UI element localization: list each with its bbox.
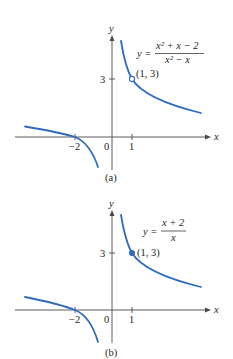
equals-sign: = bbox=[151, 226, 157, 237]
x-tick-label-1: 1 bbox=[129, 141, 134, 152]
x-tick-label-0: 0 bbox=[104, 314, 109, 325]
equation-lhs: y bbox=[136, 48, 142, 59]
equals-sign: = bbox=[145, 48, 151, 59]
panel-a: x y −2 0 1 3 (1, 3) y = x² + x − 2 x² − … bbox=[15, 23, 219, 184]
y-axis-arrow-icon bbox=[110, 35, 115, 41]
x-tick-label-1: 1 bbox=[129, 314, 134, 325]
equation-numerator: x + 2 bbox=[161, 217, 185, 228]
x-axis-arrow-icon bbox=[205, 135, 211, 140]
curve-left-branch-b bbox=[25, 297, 98, 342]
x-axis-arrow-icon bbox=[205, 308, 211, 313]
x-axis-label: x bbox=[213, 131, 219, 142]
equation-denominator: x bbox=[170, 232, 176, 243]
y-axis-label: y bbox=[108, 23, 114, 34]
open-point-marker bbox=[129, 76, 134, 81]
y-tick-label-3: 3 bbox=[100, 74, 105, 85]
figure: x y −2 0 1 3 (1, 3) y = x² + x − 2 x² − … bbox=[0, 0, 233, 359]
curve-left-branch-a bbox=[25, 127, 98, 168]
point-annotation-b: (1, 3) bbox=[137, 247, 160, 259]
panel-b: x y −2 0 1 3 (1, 3) y = x + 2 x (b) bbox=[15, 198, 219, 359]
equation-numerator: x² + x − 2 bbox=[155, 40, 199, 51]
equation-lhs: y bbox=[142, 226, 148, 237]
panel-caption-a: (a) bbox=[105, 172, 117, 184]
x-tick-label-neg2: −2 bbox=[69, 314, 80, 325]
y-axis-arrow-icon bbox=[110, 210, 115, 216]
filled-point-marker bbox=[129, 250, 134, 255]
panel-caption-b: (b) bbox=[105, 347, 118, 359]
equation-a: y = x² + x − 2 x² − x bbox=[136, 40, 204, 65]
y-axis-label: y bbox=[108, 198, 114, 209]
x-tick-label-0: 0 bbox=[104, 141, 109, 152]
equation-b: y = x + 2 x bbox=[142, 217, 186, 243]
x-axis-label: x bbox=[213, 304, 219, 315]
y-tick-label-3: 3 bbox=[100, 248, 105, 259]
x-tick-label-neg2: −2 bbox=[69, 141, 80, 152]
equation-denominator: x² − x bbox=[164, 54, 190, 65]
point-annotation-a: (1, 3) bbox=[136, 68, 159, 80]
